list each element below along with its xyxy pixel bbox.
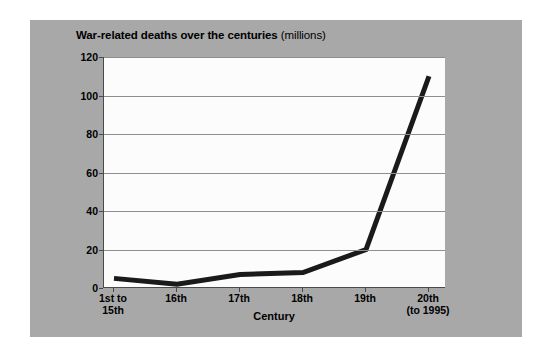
chart-title-unit: (millions): [281, 29, 326, 41]
gridline: [104, 134, 445, 135]
gridline: [104, 173, 445, 174]
y-axis-tick-mark: [99, 250, 103, 251]
x-axis-tick-label-line2: (to 1995): [388, 305, 468, 317]
y-axis-tick-mark: [99, 288, 103, 289]
y-axis-tick-mark: [99, 96, 103, 97]
chart-title: War-related deaths over the centuries (m…: [76, 29, 326, 41]
gridline: [104, 211, 445, 212]
y-axis-tick-label: 0: [68, 283, 98, 294]
y-axis-tick-mark: [99, 211, 103, 212]
gridline: [104, 96, 445, 97]
y-axis-tick-mark: [99, 57, 103, 58]
y-axis-tick-label: 20: [68, 244, 98, 255]
chart-title-main: War-related deaths over the centuries: [76, 29, 278, 41]
y-axis-tick-label: 80: [68, 129, 98, 140]
y-axis-tick-label: 100: [68, 90, 98, 101]
y-axis-tick-label: 40: [68, 206, 98, 217]
gridline: [104, 57, 445, 58]
y-axis-tick-mark: [99, 134, 103, 135]
gridline: [104, 250, 445, 251]
x-axis-tick-label: 20th(to 1995): [388, 293, 468, 316]
y-axis-tick-label: 60: [68, 167, 98, 178]
x-axis-tick-label-line1: 20th: [388, 293, 468, 305]
data-line: [114, 76, 429, 284]
chart-card: War-related deaths over the centuries (m…: [30, 20, 522, 337]
y-axis-tick-label: 120: [68, 52, 98, 63]
plot-area: [103, 57, 445, 288]
y-axis-tick-mark: [99, 173, 103, 174]
y-axis-tick-labels: 020406080100120: [68, 57, 98, 288]
x-axis-tick-label-line2: 15th: [73, 305, 153, 317]
